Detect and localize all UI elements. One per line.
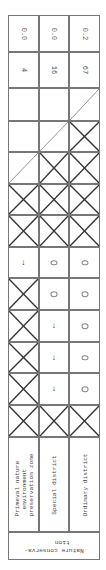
cell-value: 0.2: [81, 27, 89, 40]
cross-hatch-icon: [70, 122, 99, 151]
cell-r1-special: 16: [39, 52, 69, 88]
zero-mark-icon: [51, 291, 58, 297]
cell-r10-special: ↓: [39, 342, 69, 373]
cell-r4-ordinary: [69, 152, 100, 184]
cross-hatch-icon: [40, 153, 68, 183]
cell-r1-ordinary: 67: [69, 52, 100, 88]
label-line: Nature conserva-: [24, 547, 83, 554]
cell-r5-primeval: [8, 184, 39, 215]
cell-r0-ordinary: 0.2: [69, 15, 100, 52]
cell-r11-ordinary: [69, 373, 100, 405]
cell-r12-primeval: [8, 405, 39, 437]
column-label-special: Special district: [51, 455, 58, 514]
cell-r8-ordinary: [69, 278, 100, 310]
cell-r7-special: [39, 247, 69, 278]
cell-r7-primeval: ↓: [8, 247, 39, 278]
column-label-ordinary: Ordinary district: [81, 453, 88, 516]
cell-r6-primeval: [8, 215, 39, 247]
cell-r9-special: ↓: [39, 310, 69, 342]
cross-hatch-icon: [70, 185, 99, 214]
arrow-down-icon: ↓: [52, 354, 57, 362]
cross-hatch-icon: [70, 406, 99, 436]
cell-r8-primeval: [8, 278, 39, 310]
cell-r4-special: [39, 152, 69, 184]
cross-hatch-icon: [9, 216, 38, 246]
cross-hatch-icon: [40, 216, 68, 246]
cell-value: 0.0: [50, 27, 58, 40]
cell-r12-special: [39, 405, 69, 437]
column-header-primeval: Primeval nature environment preservation…: [8, 437, 39, 532]
zero-mark-icon: [81, 291, 88, 297]
cell-r2-ordinary: [69, 88, 100, 121]
cell-r6-ordinary: [69, 215, 100, 247]
cell-r11-special: ↓: [39, 373, 69, 405]
diagonal-line-icon: [70, 89, 99, 120]
nature-conservation-table: 0.0 0.0 0.2 4 16 67 ↓↓↓↓ Primeval nature…: [8, 15, 100, 560]
cell-r0-special: 0.0: [39, 15, 69, 52]
cell-r12-ordinary: [69, 405, 100, 437]
cell-r9-primeval: [8, 310, 39, 342]
cell-value: 0.0: [20, 27, 28, 40]
cell-r2-primeval: [8, 88, 39, 121]
cell-r10-ordinary: [69, 342, 100, 373]
cell-value: 67: [81, 66, 89, 74]
cross-hatch-icon: [9, 374, 38, 404]
label-line: preservation zone: [27, 453, 34, 516]
diagonal-line-icon: [40, 122, 68, 151]
cross-hatch-icon: [9, 343, 38, 372]
cell-r7-ordinary: [69, 247, 100, 278]
zero-mark-icon: [81, 323, 88, 329]
column-header-ordinary: Ordinary district: [69, 437, 100, 532]
group-label: Nature conserva- tion: [24, 538, 83, 554]
zero-mark-icon: [51, 260, 58, 266]
label-line: tion: [55, 539, 84, 546]
label-line: environment: [20, 468, 27, 516]
cross-hatch-icon: [70, 153, 99, 183]
cell-r3-ordinary: [69, 121, 100, 152]
arrow-down-icon: ↓: [52, 385, 57, 393]
cell-r8-special: [39, 278, 69, 310]
cell-r6-special: [39, 215, 69, 247]
cross-hatch-icon: [40, 185, 68, 214]
cross-hatch-icon: [40, 406, 68, 436]
cell-r1-primeval: 4: [8, 52, 39, 88]
zero-mark-icon: [81, 260, 88, 266]
cross-hatch-icon: [9, 311, 38, 341]
label-line: Primeval nature: [13, 460, 20, 516]
cell-r3-special: [39, 121, 69, 152]
cell-r9-ordinary: [69, 310, 100, 342]
cell-r11-primeval: [8, 373, 39, 405]
zero-mark-icon: [81, 386, 88, 392]
zero-mark-icon: [81, 355, 88, 361]
cell-r5-ordinary: [69, 184, 100, 215]
cross-hatch-icon: [9, 185, 38, 214]
arrow-down-icon: ↓: [52, 322, 57, 330]
cell-r5-special: [39, 184, 69, 215]
cell-value: 4: [20, 68, 28, 72]
cross-hatch-icon: [70, 216, 99, 246]
cross-hatch-icon: [9, 279, 38, 309]
column-header-special: Special district: [39, 437, 69, 532]
cell-r10-primeval: [8, 342, 39, 373]
group-header-nature-conservation: Nature conserva- tion: [8, 532, 100, 560]
diagonal-line-icon: [9, 153, 38, 183]
cell-r2-special: [39, 88, 69, 121]
cell-value: 16: [50, 66, 58, 74]
cell-r4-primeval: [8, 152, 39, 184]
arrow-down-icon: ↓: [21, 259, 26, 267]
cell-r0-primeval: 0.0: [8, 15, 39, 52]
cross-hatch-icon: [9, 406, 38, 436]
cell-r3-primeval: [8, 121, 39, 152]
column-label-primeval: Primeval nature environment preservation…: [13, 453, 34, 516]
